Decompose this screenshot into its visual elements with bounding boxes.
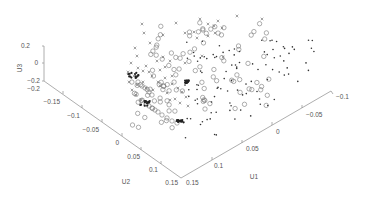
u1-tick: 0.05 — [246, 145, 259, 152]
u2-tick: 0.05 — [127, 153, 140, 160]
u2-tick: −0.05 — [83, 126, 100, 133]
u1-tick: 0.1 — [214, 162, 223, 169]
u3-tick: −0.2 — [27, 77, 40, 84]
u1-tick: 0.15 — [186, 179, 199, 186]
u2-tick-labels: −0.2 −0.15 −0.1 −0.05 0 0.05 0.1 0.15 — [27, 85, 178, 186]
u2-axis — [44, 81, 181, 178]
u1-tick: −0.05 — [306, 111, 323, 118]
u3-tick-labels: 0.2 0 −0.2 — [21, 42, 40, 84]
u2-axis-label: U2 — [122, 178, 131, 185]
u1-tick: 0 — [276, 128, 280, 135]
u2-tick: 0.1 — [149, 166, 158, 173]
u1-tick: −0.1 — [336, 93, 349, 100]
u2-tick: 0.15 — [165, 179, 178, 186]
u2-tick: −0.2 — [27, 85, 40, 92]
axes — [42, 46, 333, 178]
u1-axis — [181, 91, 331, 178]
u3-tick: 0.2 — [21, 42, 30, 49]
series-dot-markers — [127, 39, 315, 138]
u3-axis-label: U3 — [16, 63, 23, 72]
u3-tick: 0 — [34, 59, 38, 66]
u1-axis-label: U1 — [250, 173, 259, 180]
scatter-3d-plot: 0.2 0 −0.2 U3 −0.2 −0.15 −0.1 −0.05 0 0.… — [0, 0, 366, 197]
u2-tick: 0 — [115, 139, 119, 146]
u2-tick: −0.1 — [67, 112, 80, 119]
u2-tick: −0.15 — [44, 98, 61, 105]
